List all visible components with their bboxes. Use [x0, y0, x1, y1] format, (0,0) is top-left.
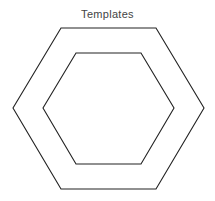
- inner-hexagon: [43, 53, 174, 164]
- outer-hexagon: [13, 28, 204, 189]
- hexagon-diagram: [0, 0, 215, 201]
